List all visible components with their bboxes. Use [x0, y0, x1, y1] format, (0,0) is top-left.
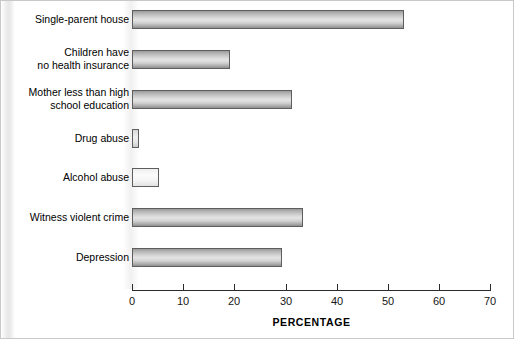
x-axis-tick	[439, 284, 440, 291]
category-label: Mother less than high school education	[0, 86, 129, 111]
chart-row: Drug abuse	[1, 126, 514, 166]
bar-depression	[132, 248, 282, 267]
x-axis-end-tick	[490, 284, 491, 291]
x-axis-tick-label: 50	[368, 295, 408, 307]
bar-single-parent-house	[132, 10, 404, 29]
x-axis-tick-label: 60	[419, 295, 459, 307]
bar-witness-violent-crime	[132, 208, 303, 227]
category-label: Depression	[0, 251, 129, 264]
x-axis-tick-label: 70	[470, 295, 510, 307]
category-label: Witness violent crime	[0, 211, 129, 224]
x-axis-tick	[337, 284, 338, 291]
x-axis-line	[132, 290, 491, 291]
x-axis-tick	[183, 284, 184, 291]
category-label: Children have no health insurance	[0, 46, 129, 71]
x-axis-tick-label: 40	[317, 295, 357, 307]
chart-row: Alcohol abuse	[1, 165, 514, 205]
category-label: Alcohol abuse	[0, 171, 129, 184]
x-axis-tick	[388, 284, 389, 291]
x-axis-tick-label: 10	[163, 295, 203, 307]
bar-mother-less-than-high-school	[132, 90, 292, 109]
x-axis-tick-label: 20	[214, 295, 254, 307]
category-label: Drug abuse	[0, 132, 129, 145]
chart-row: Children have no health insurance	[1, 45, 514, 85]
x-axis-tick	[234, 284, 235, 291]
x-axis-tick	[286, 284, 287, 291]
category-label: Single-parent house	[0, 13, 129, 26]
plot-area: Single-parent house Children have no hea…	[1, 1, 514, 339]
chart-row: Mother less than high school education	[1, 85, 514, 125]
chart-row: Depression	[1, 245, 514, 285]
chart-row: Witness violent crime	[1, 205, 514, 245]
x-axis-tick-label: 30	[266, 295, 306, 307]
bar-alcohol-abuse	[132, 168, 159, 187]
chart-row: Single-parent house	[1, 5, 514, 45]
bar-chart-figure: Single-parent house Children have no hea…	[0, 0, 514, 339]
bar-drug-abuse	[132, 129, 139, 148]
x-axis-start-tick	[132, 284, 133, 291]
bar-children-no-health-insurance	[132, 50, 230, 69]
x-axis-tick-label: 0	[112, 295, 152, 307]
x-axis-title: PERCENTAGE	[132, 316, 491, 328]
